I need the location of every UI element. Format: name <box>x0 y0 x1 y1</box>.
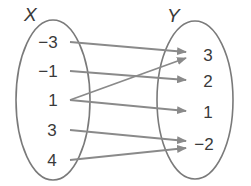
range-title: Y <box>167 6 180 25</box>
domain-title: X <box>24 5 37 24</box>
domain-element: 3 <box>47 122 56 139</box>
domain-element: −1 <box>38 63 57 80</box>
range-element: 1 <box>203 104 212 121</box>
range-element: 3 <box>203 47 212 64</box>
range-element: 2 <box>203 73 212 90</box>
arrow-3-to-neg2 <box>70 130 186 141</box>
diagram-canvas <box>0 0 251 186</box>
range-set-oval <box>157 21 233 179</box>
domain-element: 4 <box>47 152 56 169</box>
arrow-1-to-1 <box>70 100 186 111</box>
range-element: −2 <box>194 136 213 153</box>
domain-element: −3 <box>38 34 57 51</box>
domain-element: 1 <box>48 92 57 109</box>
mapping-diagram: X Y −3 −1 1 3 4 3 2 1 −2 <box>0 0 251 186</box>
